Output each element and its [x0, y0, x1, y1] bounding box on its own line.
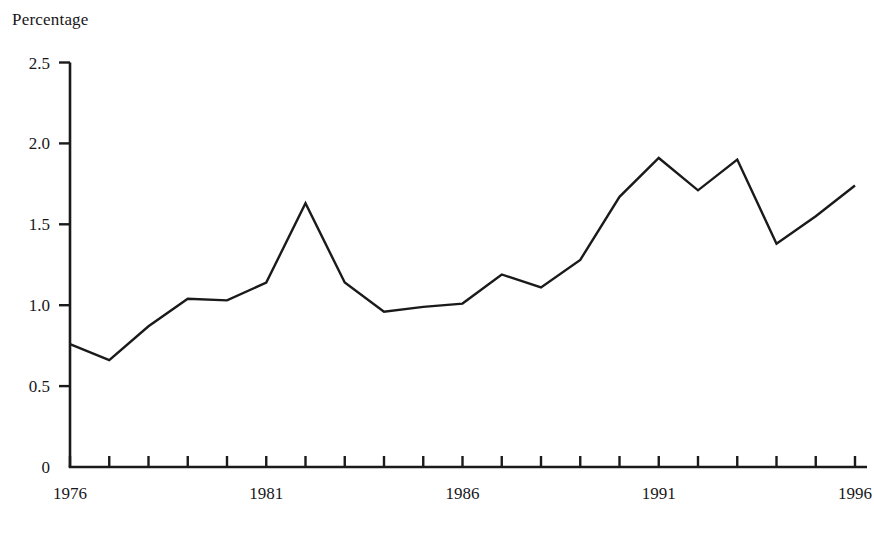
y-axis-tick-label: 0.5 — [29, 377, 50, 396]
y-axis-tick-labels: 00.51.01.52.02.5 — [29, 54, 50, 478]
x-axis-tick-labels: 19761981198619911996 — [53, 484, 872, 503]
y-axis-tick-label: 1.0 — [29, 296, 50, 315]
y-axis-tick-label: 2.0 — [29, 134, 50, 153]
y-axis-tick-label: 1.5 — [29, 215, 50, 234]
line-chart-plot: 00.51.01.52.02.5 19761981198619911996 — [0, 0, 874, 533]
y-axis-tick-label: 0 — [42, 458, 51, 477]
x-axis-tick-label: 1996 — [838, 484, 872, 503]
x-axis-tick-label: 1976 — [53, 484, 87, 503]
x-axis-ticks — [70, 456, 855, 467]
x-axis-tick-label: 1986 — [446, 484, 480, 503]
y-axis-ticks — [59, 63, 70, 387]
x-axis-tick-label: 1991 — [642, 484, 676, 503]
chart-container: Percentage 00.51.01.52.02.5 197619811986… — [0, 0, 874, 533]
x-axis-tick-label: 1981 — [249, 484, 283, 503]
data-series-line — [70, 158, 855, 360]
y-axis-tick-label: 2.5 — [29, 54, 50, 73]
